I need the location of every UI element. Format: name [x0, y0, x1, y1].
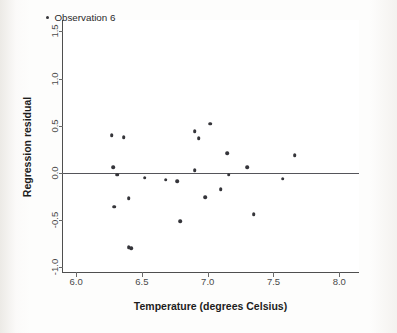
data-point	[197, 136, 201, 140]
data-point	[110, 133, 114, 137]
x-axis-tick	[142, 272, 143, 277]
data-point	[227, 173, 231, 177]
y-axis-tick	[59, 79, 64, 80]
x-axis-tick-label: 7.0	[201, 276, 214, 287]
plot-area: -1.0-0.50.00.51.01.5 6.06.57.07.58.0	[62, 20, 359, 273]
scatter-plot-figure: Observation 6 Regression residual Temper…	[0, 0, 397, 333]
y-axis-tick	[59, 173, 64, 174]
data-point	[130, 247, 134, 251]
data-point	[127, 197, 131, 201]
data-point	[252, 213, 256, 217]
y-axis-tick	[59, 267, 64, 268]
x-axis-tick-label: 6.5	[135, 276, 148, 287]
x-axis-tick	[208, 272, 209, 277]
x-axis-tick	[339, 272, 340, 277]
y-axis-tick	[59, 220, 64, 221]
y-axis-tick	[59, 31, 64, 32]
data-point	[219, 187, 223, 191]
data-point	[209, 122, 213, 126]
y-axis-tick	[59, 126, 64, 127]
data-point	[203, 196, 207, 200]
x-axis-tick-label: 7.5	[267, 276, 280, 287]
x-axis-tick-label: 8.0	[333, 276, 346, 287]
y-axis-title: Regression residual	[21, 97, 33, 197]
data-point	[193, 130, 197, 134]
data-point	[122, 135, 126, 139]
data-point	[115, 173, 119, 177]
x-axis-tick	[273, 272, 274, 277]
x-axis-title: Temperature (degrees Celsius)	[62, 300, 359, 312]
legend-entry-label: Observation 6	[54, 12, 115, 23]
data-point	[143, 176, 147, 180]
data-point	[111, 165, 115, 169]
x-axis-tick	[76, 272, 77, 277]
legend-marker-dot-icon	[46, 16, 49, 19]
data-point	[245, 165, 249, 169]
data-point	[226, 151, 230, 155]
data-point	[193, 168, 197, 172]
data-point	[178, 219, 182, 223]
data-point	[164, 178, 168, 182]
data-point	[293, 153, 297, 157]
data-point	[176, 180, 180, 184]
zero-reference-line	[63, 173, 359, 174]
data-point	[113, 205, 117, 209]
data-point	[281, 177, 285, 181]
x-axis-tick-label: 6.0	[70, 276, 83, 287]
legend: Observation 6	[46, 12, 115, 23]
